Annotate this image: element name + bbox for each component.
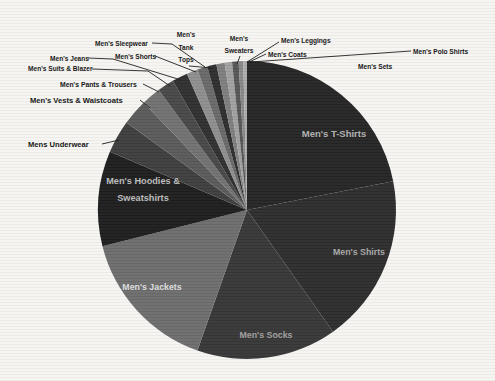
- callout-label-men-s-jeans: Men's Jeans: [50, 55, 89, 62]
- callout-label-men-s-coats: Men's Coats: [268, 51, 307, 58]
- callout-label-men-s-sweaters: Men'sSweaters: [225, 35, 254, 54]
- pie-chart: Men's T-ShirtsMen's ShirtsMen's SocksMen…: [0, 0, 495, 381]
- callout-label-men-s-shorts: Men's Shorts: [115, 53, 156, 60]
- callout-label-men-s-tank-tops: Men'sTankTops: [177, 31, 196, 64]
- slice-label-men-s-socks: Men's Socks: [240, 330, 293, 340]
- callout-label-men-s-sets: Men's Sets: [358, 63, 393, 70]
- callout-label-men-s-pants-trousers: Men's Pants & Trousers: [60, 81, 137, 88]
- leader-line-men-s-pants-trousers: [143, 84, 159, 92]
- callout-label-men-s-vests-waistcoats: Men's Vests & Waistcoats: [30, 96, 123, 105]
- callout-label-men-s-leggings: Men's Leggings: [281, 37, 331, 45]
- callout-label-men-s-polo-shirts: Men's Polo Shirts: [413, 48, 468, 55]
- slice-label-men-s-t-shirts: Men's T-Shirts: [302, 128, 367, 139]
- pie-svg: Men's T-ShirtsMen's ShirtsMen's SocksMen…: [0, 0, 495, 381]
- callout-label-mens-underwear: Mens Underwear: [28, 140, 89, 149]
- slice-label-men-s-shirts: Men's Shirts: [333, 247, 385, 257]
- callout-label-men-s-suits-blazer: Men's Suits & Blazer: [28, 65, 93, 72]
- slice-label-men-s-jackets: Men's Jackets: [122, 282, 181, 292]
- callout-label-men-s-sleepwear: Men's Sleepwear: [95, 40, 148, 48]
